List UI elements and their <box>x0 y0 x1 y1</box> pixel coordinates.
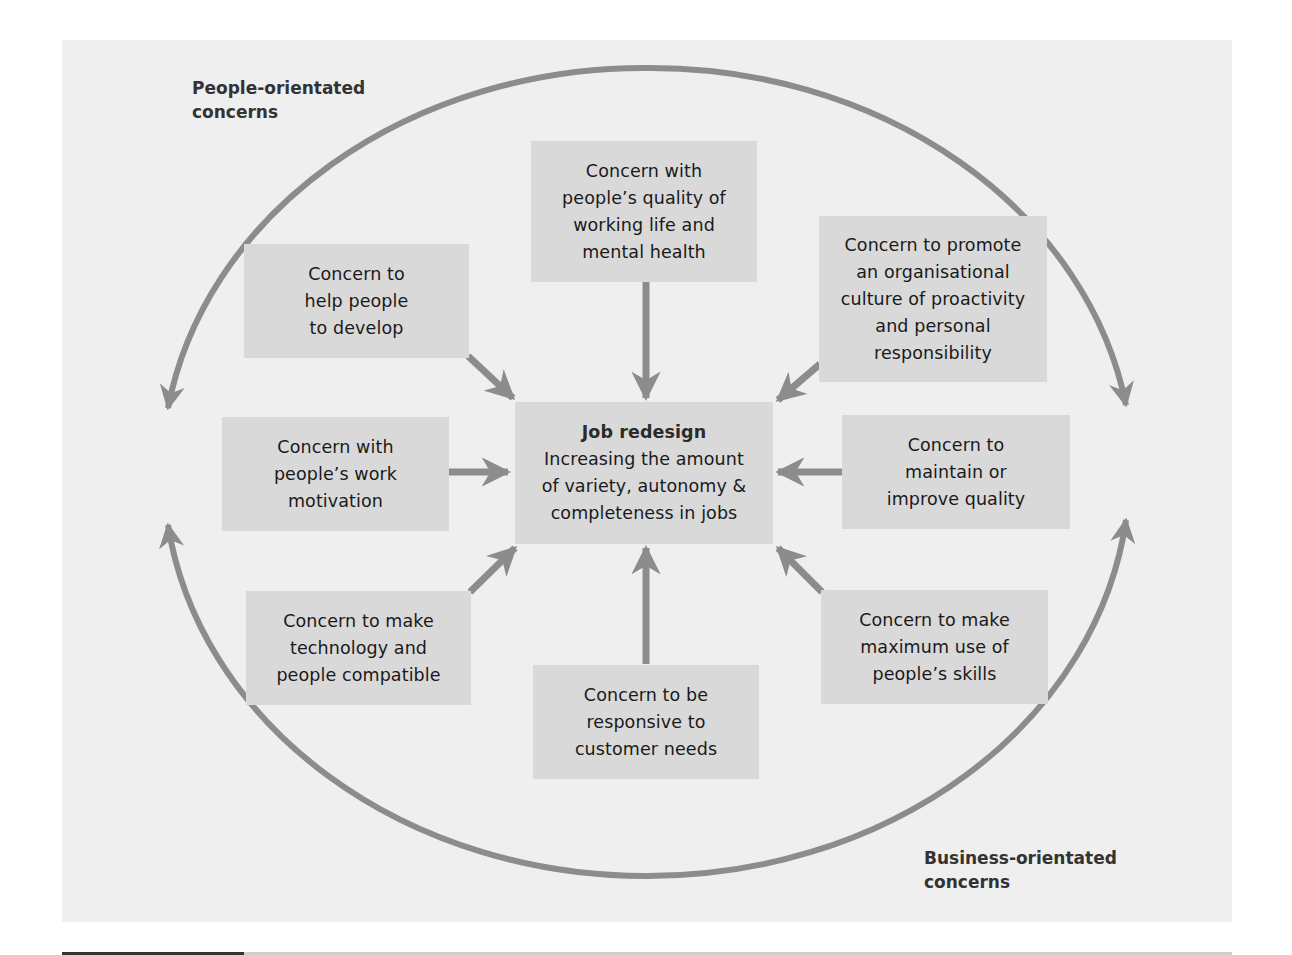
concern-technology-compatible: Concern to make technology and people co… <box>246 591 471 705</box>
concern-quality-of-working-life: Concern with people’s quality of working… <box>531 141 757 282</box>
concern-quality: Concern to maintain or improve quality <box>842 415 1070 529</box>
concern-proactivity-culture: Concern to promote an organisational cul… <box>819 216 1047 382</box>
arrow-from-top-right-icon <box>778 364 820 400</box>
job-redesign-box: Job redesign Increasing the amount of va… <box>515 402 773 544</box>
arrow-from-top-left-icon <box>468 356 513 398</box>
business-orientated-label: Business-orientated concerns <box>924 846 1117 894</box>
concern-skills: Concern to make maximum use of people’s … <box>821 590 1048 704</box>
arrow-from-bottom-right-icon <box>778 548 822 592</box>
concern-help-develop: Concern to help people to develop <box>244 244 469 358</box>
concern-work-motivation: Concern with people’s work motivation <box>222 417 449 531</box>
people-orientated-label: People-orientated concerns <box>192 76 365 124</box>
concern-customer-needs: Concern to be responsive to customer nee… <box>533 665 759 779</box>
arrow-from-bottom-left-icon <box>470 548 515 592</box>
job-redesign-title: Job redesign <box>542 419 747 446</box>
